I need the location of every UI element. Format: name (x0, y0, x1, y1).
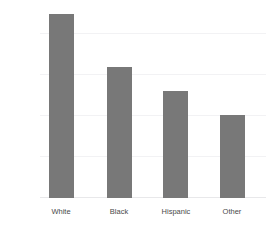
bar-chart: 0% 5% 10% 15% 20% White Black Hispanic O… (0, 0, 274, 232)
bar-white[interactable] (49, 14, 74, 198)
plot-area: 0% 5% 10% 15% 20% (40, 4, 266, 198)
bar-hispanic[interactable] (163, 91, 188, 198)
bar-black[interactable] (107, 67, 132, 198)
xtick-label-other: Other (197, 208, 267, 216)
bar-other[interactable] (220, 115, 245, 198)
